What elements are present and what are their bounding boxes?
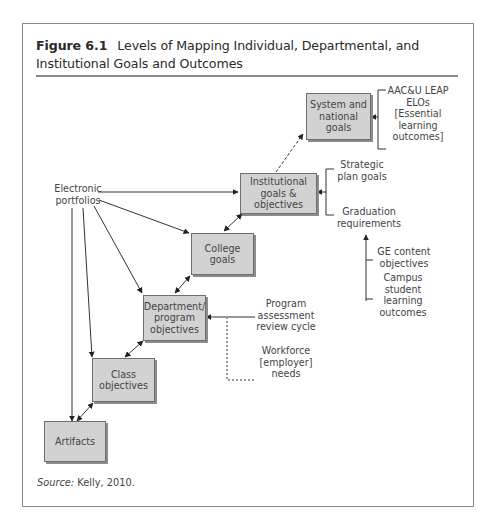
aacu-bracket bbox=[378, 90, 386, 149]
source-label: Source: bbox=[37, 477, 74, 488]
arrow-artifacts-class bbox=[77, 403, 93, 421]
label-aacu-leap-elos: AAC&U LEAP ELOs [Essential learning outc… bbox=[386, 85, 450, 143]
arrow-department-college bbox=[175, 276, 190, 293]
arrow-portfolio-to-college bbox=[99, 200, 189, 233]
label-campus-student-learning-outcomes: Campus student learning outcomes bbox=[374, 272, 432, 318]
node-label: College goals bbox=[192, 243, 253, 266]
arrow-institutional-to-system bbox=[276, 134, 303, 172]
label-electronic-portfolios: Electronic portfolios bbox=[50, 183, 106, 206]
node-label: Department/ program objectives bbox=[144, 301, 205, 336]
figure-source: Source: Kelly, 2010. bbox=[37, 477, 135, 488]
node-artifacts: Artifacts bbox=[44, 421, 106, 462]
node-label: Artifacts bbox=[55, 436, 95, 448]
arrow-class-department bbox=[125, 341, 143, 357]
node-label: System and national goals bbox=[307, 99, 370, 134]
label-strategic-plan-goals: Strategic plan goals bbox=[334, 159, 390, 182]
node-institutional-goals: Institutional goals & objectives bbox=[240, 173, 317, 214]
strategic-bracket bbox=[326, 169, 334, 215]
node-department-program-objectives: Department/ program objectives bbox=[143, 295, 206, 341]
arrow-portfolio-to-class bbox=[83, 208, 92, 357]
source-text: Kelly, 2010. bbox=[74, 477, 135, 488]
node-label: Institutional goals & objectives bbox=[241, 176, 316, 211]
label-program-assessment-review-cycle: Program assessment review cycle bbox=[254, 298, 318, 333]
node-class-objectives: Class objectives bbox=[92, 358, 155, 402]
node-system-national-goals: System and national goals bbox=[306, 93, 371, 140]
label-graduation-requirements: Graduation requirements bbox=[334, 206, 404, 229]
label-ge-content-objectives: GE content objectives bbox=[372, 246, 436, 269]
label-workforce-employer-needs: Workforce [employer] needs bbox=[254, 345, 318, 380]
arrow-portfolio-to-department bbox=[94, 206, 142, 293]
arrow-college-institutional bbox=[224, 214, 242, 231]
node-label: Class objectives bbox=[93, 369, 154, 392]
node-college-goals: College goals bbox=[191, 233, 254, 275]
workforce-dashed-link bbox=[227, 318, 254, 380]
